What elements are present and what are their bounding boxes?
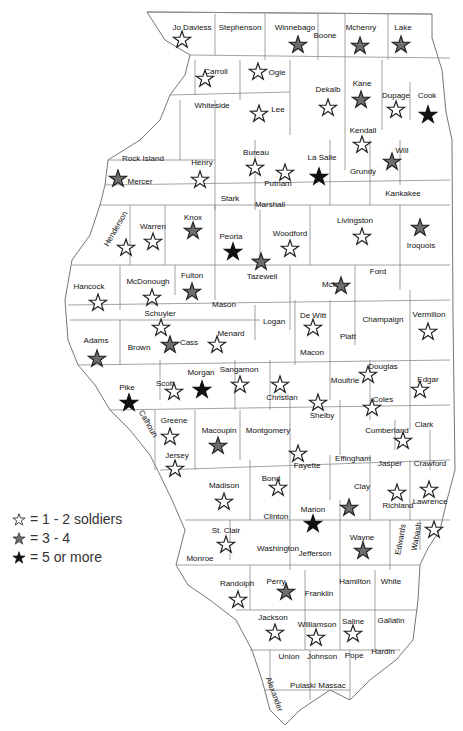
county-label-white: White — [381, 577, 402, 586]
county-label-stephenson: Stephenson — [219, 23, 262, 32]
county-label-mcdonough: McDonough — [126, 277, 169, 286]
county-label-clinton: Clinton — [264, 512, 289, 521]
county-label-logan: Logan — [263, 317, 285, 326]
county-label-union: Union — [279, 652, 300, 661]
star-outline-icon — [12, 513, 26, 527]
county-label-jefferson: Jefferson — [299, 549, 332, 558]
county-label-bureau: Bureau — [243, 148, 269, 157]
county-label-kankakee: Kankakee — [385, 189, 421, 198]
county-label-henry: Henry — [191, 158, 212, 167]
county-label-johnson: Johnson — [307, 652, 337, 661]
county-label-richland: Richland — [382, 501, 413, 510]
county-label-sangamon: Sangamon — [220, 365, 259, 374]
county-label-champaign: Champaign — [363, 315, 404, 324]
star-black-icon — [12, 551, 26, 565]
legend-label-light: = 1 - 2 soldiers — [30, 510, 122, 529]
county-label-dekalb: Dekalb — [316, 85, 341, 94]
county-label-hamilton: Hamilton — [339, 577, 371, 586]
county-label-hancock: Hancock — [73, 282, 105, 291]
county-label-vermilion: Vermilion — [413, 310, 446, 319]
county-label-grundy: Grundy — [350, 167, 376, 176]
county-label-moultrie: Moultrie — [331, 376, 360, 385]
county-label-macoupin: Macoupin — [202, 426, 237, 435]
county-label-douglas: Douglas — [368, 362, 397, 371]
county-label-tazewell: Tazewell — [247, 272, 278, 281]
county-label-monroe: Monroe — [186, 554, 214, 563]
illinois-county-map: Jo DaviessStephensonWinnebagoBooneMchenr… — [0, 0, 463, 731]
county-label-jasper: Jasper — [378, 459, 402, 468]
legend: = 1 - 2 soldiers = 3 - 4 = 5 or more — [12, 510, 122, 567]
county-label-cook: Cook — [418, 91, 438, 100]
county-label-carroll: Carroll — [204, 67, 228, 76]
county-label-kane: Kane — [353, 79, 372, 88]
county-label-pulaski: Pulaski — [290, 681, 316, 690]
county-label-fulton: Fulton — [181, 271, 203, 280]
county-label-williamson: Williamson — [298, 620, 337, 629]
legend-label-medium: = 3 - 4 — [30, 529, 70, 548]
county-label-clark: Clark — [415, 420, 435, 429]
county-label-dupage: Dupage — [382, 91, 411, 100]
star-gray-icon — [12, 532, 26, 546]
legend-row-medium: = 3 - 4 — [12, 529, 122, 548]
county-label-menard: Menard — [217, 329, 244, 338]
county-label-will: Will — [396, 146, 409, 155]
county-label-gallatin: Gallatin — [377, 616, 404, 625]
county-label-jackson: Jackson — [258, 613, 287, 622]
county-label-iroquois: Iroquois — [407, 241, 435, 250]
county-label-wayne: Wayne — [350, 533, 375, 542]
county-label-randolph: Randolph — [220, 579, 254, 588]
county-label-woodford: Woodford — [273, 229, 308, 238]
county-label-christian: Christian — [266, 393, 298, 402]
county-label-brown: Brown — [128, 343, 151, 352]
county-label-marion: Marion — [301, 505, 325, 514]
county-label-kendall: Kendall — [350, 126, 377, 135]
county-label-lee: Lee — [271, 105, 285, 114]
county-label-mercer: Mercer — [128, 177, 153, 186]
county-label-morgan: Morgan — [187, 368, 214, 377]
county-label-st-clair: St. Clair — [212, 526, 241, 535]
county-label-washington: Washington — [257, 544, 299, 553]
county-label-peoria: Peoria — [219, 232, 243, 241]
county-label-shelby: Shelby — [310, 411, 334, 420]
county-label-whiteside: Whiteside — [194, 101, 230, 110]
county-label-jo-daviess: Jo Daviess — [172, 23, 211, 32]
county-label-lake: Lake — [394, 23, 412, 32]
county-label-mchenry: Mchenry — [346, 23, 377, 32]
county-label-franklin: Franklin — [305, 589, 333, 598]
legend-label-dark: = 5 or more — [30, 548, 102, 567]
county-label-mason: Mason — [212, 300, 236, 309]
county-label-livingston: Livingston — [337, 216, 373, 225]
county-label-rock-island: Rock Island — [122, 154, 164, 163]
county-label-coles: Coles — [373, 395, 393, 404]
county-label-ogle: Ogle — [269, 68, 286, 77]
county-label-pope: Pope — [345, 651, 364, 660]
county-label-boone: Boone — [313, 31, 337, 40]
county-label-jersey: Jersey — [165, 451, 189, 460]
legend-row-light: = 1 - 2 soldiers — [12, 510, 122, 529]
county-label-winnebago: Winnebago — [275, 23, 316, 32]
county-label-montgomery: Montgomery — [246, 426, 290, 435]
county-label-scott: Scott — [156, 379, 175, 388]
county-label-fayette: Fayette — [294, 461, 321, 470]
county-label-greene: Greene — [161, 416, 188, 425]
county-label-massac: Massac — [318, 681, 346, 690]
county-label-lawrence: Lawrence — [413, 497, 448, 506]
county-label-platt: Platt — [340, 332, 357, 341]
legend-row-dark: = 5 or more — [12, 548, 122, 567]
county-label-clay: Clay — [354, 482, 370, 491]
county-label-marshall: Marshall — [255, 200, 285, 209]
county-label-warren: Warren — [140, 222, 166, 231]
county-label-crawford: Crawford — [414, 459, 446, 468]
county-label-cass: Cass — [180, 338, 198, 347]
county-label-adams: Adams — [84, 336, 109, 345]
county-label-perry: Perry — [266, 577, 285, 586]
county-label-ford: Ford — [370, 267, 386, 276]
county-label-pike: Pike — [119, 383, 135, 392]
county-label-effingham: Effingham — [335, 454, 371, 463]
county-label-putnam: Putnam — [264, 179, 292, 188]
county-label-schuyler: Schuyler — [144, 309, 175, 318]
county-label-la-salle: La Salle — [308, 153, 337, 162]
county-label-stark: Stark — [221, 194, 241, 203]
county-label-macon: Macon — [300, 348, 324, 357]
county-label-madison: Madison — [209, 481, 239, 490]
